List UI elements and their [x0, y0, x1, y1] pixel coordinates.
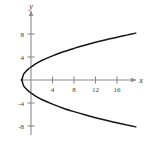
y-tick-label-neg4: -4	[18, 100, 24, 108]
x-tick-label-8: 8	[72, 86, 76, 94]
x-tick-label-12: 12	[92, 86, 100, 94]
parabola-upper-branch	[22, 33, 136, 80]
y-tick-label-neg8: -8	[18, 123, 24, 131]
y-axis-label: y	[28, 2, 33, 11]
coordinate-plot: 4 8 12 16 8 4 -4 -8 y x	[0, 0, 149, 141]
axes-group	[20, 11, 136, 135]
y-tick-label-4: 4	[21, 54, 25, 62]
x-tick-label-16: 16	[114, 86, 122, 94]
x-tick-labels: 4 8 12 16	[51, 86, 121, 94]
x-tick-label-4: 4	[51, 86, 55, 94]
parabola-figure: 4 8 12 16 8 4 -4 -8 y x	[0, 0, 149, 141]
y-tick-label-8: 8	[21, 31, 25, 39]
x-axis-label: x	[138, 76, 143, 85]
